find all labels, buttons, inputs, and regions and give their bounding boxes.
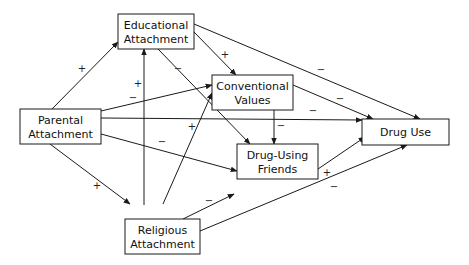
node-label: Values xyxy=(235,94,271,107)
edge-parental-to-conventional xyxy=(101,85,212,111)
edge-sign-conventional-to-druguse: − xyxy=(336,93,344,104)
signs-layer: +−−−++−−++−−−−+ xyxy=(78,49,344,206)
node-religious: ReligiousAttachment xyxy=(125,219,200,254)
edge-educational-to-conventional xyxy=(194,32,236,75)
node-label: Attachment xyxy=(124,33,189,46)
node-label: Drug-Using xyxy=(247,149,309,162)
node-label: Friends xyxy=(258,163,298,176)
node-label: Attachment xyxy=(28,128,93,141)
edge-sign-educational-to-friends: − xyxy=(174,63,182,74)
edge-parental-to-friends xyxy=(101,134,237,171)
edge-sign-religious-to-friends: − xyxy=(205,195,213,206)
nodes-layer: ParentalAttachmentEducationalAttachmentC… xyxy=(20,14,449,254)
node-label: Attachment xyxy=(130,238,195,251)
node-conventional: ConventionalValues xyxy=(212,75,293,110)
edge-parental-to-educational xyxy=(52,42,118,109)
edge-sign-parental-to-druguse: − xyxy=(309,105,317,116)
edge-sign-conventional-to-friends: − xyxy=(277,120,285,131)
edge-sign-religious-to-educational: + xyxy=(134,78,142,89)
node-label: Drug Use xyxy=(380,126,431,139)
node-friends: Drug-UsingFriends xyxy=(237,144,318,179)
edge-sign-educational-to-conventional: + xyxy=(221,49,229,60)
edge-parental-to-religious xyxy=(50,144,130,204)
edge-parental-to-druguse xyxy=(101,118,362,120)
edge-sign-parental-to-conventional: − xyxy=(129,92,137,103)
edge-sign-parental-to-religious: + xyxy=(93,180,101,191)
edge-sign-religious-to-druguse: − xyxy=(330,181,338,192)
edge-sign-parental-to-educational: + xyxy=(78,63,86,74)
node-parental: ParentalAttachment xyxy=(20,109,101,144)
edge-sign-educational-to-druguse: − xyxy=(317,64,325,75)
edge-religious-to-conventional xyxy=(163,93,212,204)
edge-friends-to-druguse xyxy=(318,137,365,169)
node-druguse: Drug Use xyxy=(362,119,449,145)
node-label: Religious xyxy=(138,224,188,237)
edge-sign-friends-to-druguse: + xyxy=(323,167,331,178)
edge-conventional-to-druguse xyxy=(293,85,373,119)
node-educational: EducationalAttachment xyxy=(118,14,194,49)
node-label: Parental xyxy=(38,114,83,127)
node-label: Educational xyxy=(124,19,189,32)
node-label: Conventional xyxy=(216,80,289,93)
edge-sign-parental-to-friends: − xyxy=(158,136,166,147)
edge-sign-religious-to-conventional: + xyxy=(188,121,196,132)
path-diagram: +−−−++−−++−−−−+ ParentalAttachmentEducat… xyxy=(0,0,469,265)
